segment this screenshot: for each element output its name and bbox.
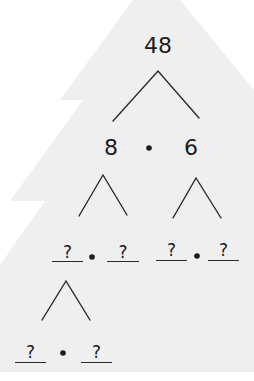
- multiply-dot-icon: [146, 145, 152, 151]
- unknown-placeholder: ?: [107, 244, 139, 261]
- tree-background-shape: [0, 0, 254, 372]
- unknown-placeholder: ?: [15, 344, 46, 361]
- unknown-placeholder: ?: [208, 242, 239, 259]
- answer-blank[interactable]: ?: [15, 344, 46, 363]
- unknown-placeholder: ?: [81, 344, 112, 361]
- root-value: 48: [138, 35, 178, 57]
- unknown-placeholder: ?: [52, 244, 83, 261]
- tree-graphics: [0, 0, 254, 381]
- factor-right-value: 6: [179, 137, 203, 159]
- answer-blank[interactable]: ?: [107, 244, 139, 262]
- answer-blank[interactable]: ?: [81, 344, 112, 363]
- answer-blank[interactable]: ?: [52, 244, 83, 262]
- multiply-dot-icon: [194, 253, 200, 259]
- answer-blank[interactable]: ?: [208, 242, 239, 261]
- multiply-dot-icon: [60, 350, 66, 356]
- unknown-placeholder: ?: [156, 242, 187, 259]
- answer-blank[interactable]: ?: [156, 242, 187, 261]
- factor-tree-diagram: 48 8 6 ? ? ? ? ? ?: [0, 0, 254, 381]
- factor-left-value: 8: [99, 137, 123, 159]
- multiply-dot-icon: [89, 254, 95, 260]
